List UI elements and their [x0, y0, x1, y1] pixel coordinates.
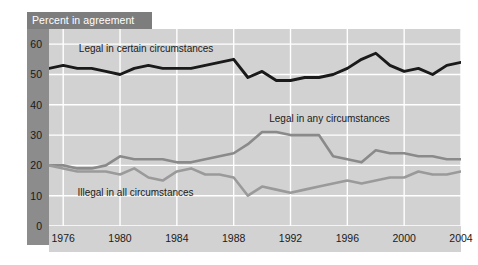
y-tick-label: 50 [20, 68, 42, 80]
y-tick-label: 30 [20, 129, 42, 141]
x-tick-label: 2004 [449, 232, 472, 244]
y-tick-label: 10 [20, 190, 42, 202]
series-line-0 [49, 53, 461, 80]
x-tick-label: 1976 [52, 232, 75, 244]
y-tick-label: 60 [20, 38, 42, 50]
x-tick-label: 1984 [165, 232, 188, 244]
series-line-1 [49, 132, 461, 168]
x-tick-label: 1996 [336, 232, 359, 244]
series-annotation: Legal in certain circumstances [79, 43, 214, 54]
series-annotation: Illegal in all circumstances [77, 187, 193, 198]
y-tick-label: 40 [20, 99, 42, 111]
x-axis-tick-labels: 19761980198419881992199620002004 [0, 226, 478, 252]
chart-title-banner: Percent in agreement [27, 12, 152, 29]
x-tick-label: 2000 [392, 232, 415, 244]
series-annotation: Legal in any circumstances [269, 113, 390, 124]
x-tick-label: 1992 [279, 232, 302, 244]
chart-figure: Percent in agreement 0102030405060 19761… [0, 0, 478, 265]
y-tick-label: 20 [20, 159, 42, 171]
x-tick-label: 1988 [222, 232, 245, 244]
x-tick-label: 1980 [108, 232, 131, 244]
